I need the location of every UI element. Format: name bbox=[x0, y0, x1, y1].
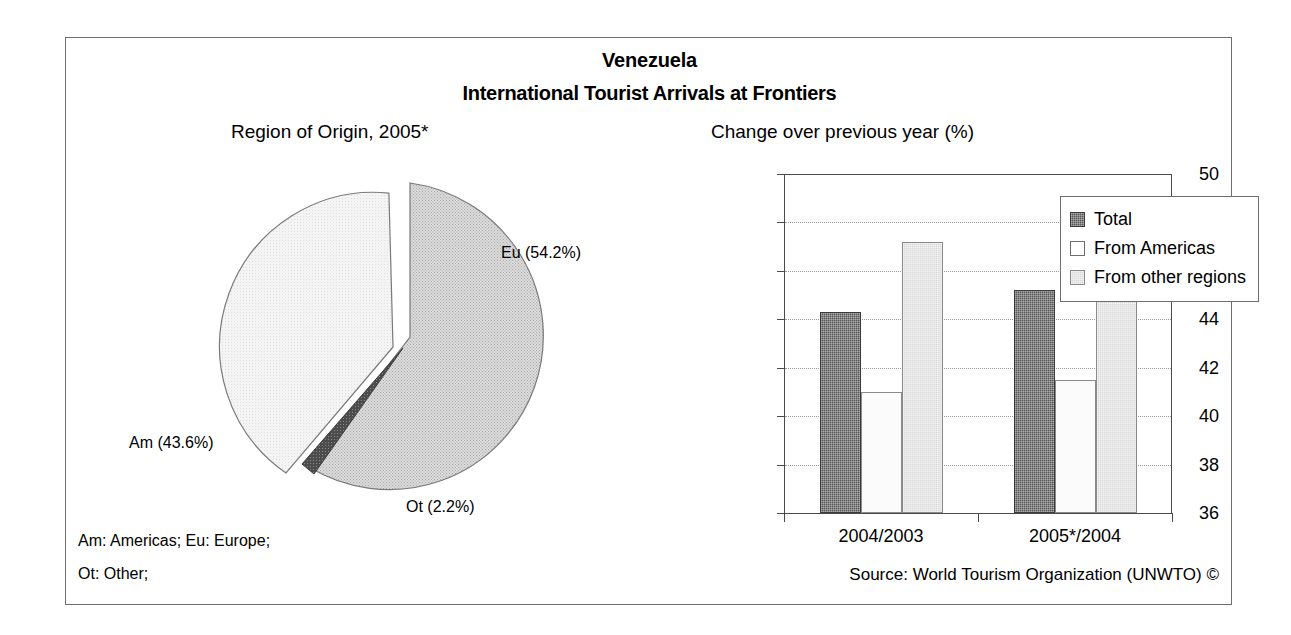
x-axis-tick-mark bbox=[1172, 513, 1173, 522]
source-note: Source: World Tourism Organization (UNWT… bbox=[849, 565, 1219, 585]
legend-label-total: Total bbox=[1094, 209, 1132, 230]
legend-swatch-total bbox=[1070, 212, 1085, 227]
x-axis-tick-mark bbox=[784, 513, 785, 522]
bar-other bbox=[902, 242, 943, 513]
legend-label-from-americas: From Americas bbox=[1094, 238, 1215, 259]
chart-page: Venezuela International Tourist Arrivals… bbox=[0, 0, 1291, 635]
y-axis-tick-mark bbox=[777, 319, 785, 320]
y-axis-tick-mark bbox=[777, 222, 785, 223]
y-axis-tick-label: 40 bbox=[1161, 406, 1219, 427]
legend-item-total[interactable]: Total bbox=[1070, 205, 1246, 234]
bar-americas bbox=[1055, 380, 1096, 513]
y-axis-tick-mark bbox=[777, 271, 785, 272]
y-axis-tick-mark bbox=[777, 174, 785, 175]
pie-label-eu: Eu (54.2%) bbox=[501, 244, 581, 262]
y-axis-tick-label: 42 bbox=[1161, 357, 1219, 378]
page-title: Venezuela bbox=[66, 49, 1233, 72]
bar-americas bbox=[861, 392, 902, 513]
x-axis-tick-mark bbox=[978, 513, 979, 522]
legend-item-from-other-regions[interactable]: From other regions bbox=[1070, 263, 1246, 292]
x-axis-tick-label: 2005*/2004 bbox=[1029, 526, 1121, 547]
y-axis-tick-mark bbox=[777, 465, 785, 466]
y-axis-tick-label: 36 bbox=[1161, 503, 1219, 524]
legend-swatch-from-other-regions bbox=[1070, 270, 1085, 285]
y-axis-tick-label: 38 bbox=[1161, 454, 1219, 475]
pie-chart: Eu (54.2%) Am (43.6%) Ot (2.2%) bbox=[191, 168, 611, 528]
y-axis-tick-mark bbox=[777, 368, 785, 369]
chart-frame: Venezuela International Tourist Arrivals… bbox=[65, 37, 1232, 605]
pie-chart-svg bbox=[191, 168, 611, 528]
pie-label-am: Am (43.6%) bbox=[129, 434, 213, 452]
bar-total bbox=[820, 312, 861, 513]
legend-item-from-americas[interactable]: From Americas bbox=[1070, 234, 1246, 263]
pie-label-ot: Ot (2.2%) bbox=[406, 498, 474, 516]
footnote-line-2: Ot: Other; bbox=[78, 565, 148, 583]
legend-label-from-other-regions: From other regions bbox=[1094, 267, 1246, 288]
bar-chart: 3638404244464850 2004/20032005*/2004 Tot… bbox=[719, 174, 1219, 594]
page-subtitle: International Tourist Arrivals at Fronti… bbox=[66, 82, 1233, 105]
bar-chart-legend: Total From Americas From other regions bbox=[1060, 196, 1259, 302]
y-axis-tick-mark bbox=[777, 416, 785, 417]
pie-chart-title: Region of Origin, 2005* bbox=[231, 121, 429, 143]
x-axis-tick-label: 2004/2003 bbox=[838, 526, 923, 547]
y-axis-tick-label: 50 bbox=[1161, 164, 1219, 185]
y-axis-tick-label: 44 bbox=[1161, 309, 1219, 330]
bar-total bbox=[1014, 290, 1055, 513]
legend-swatch-from-americas bbox=[1070, 241, 1085, 256]
footnote-line-1: Am: Americas; Eu: Europe; bbox=[78, 532, 270, 550]
